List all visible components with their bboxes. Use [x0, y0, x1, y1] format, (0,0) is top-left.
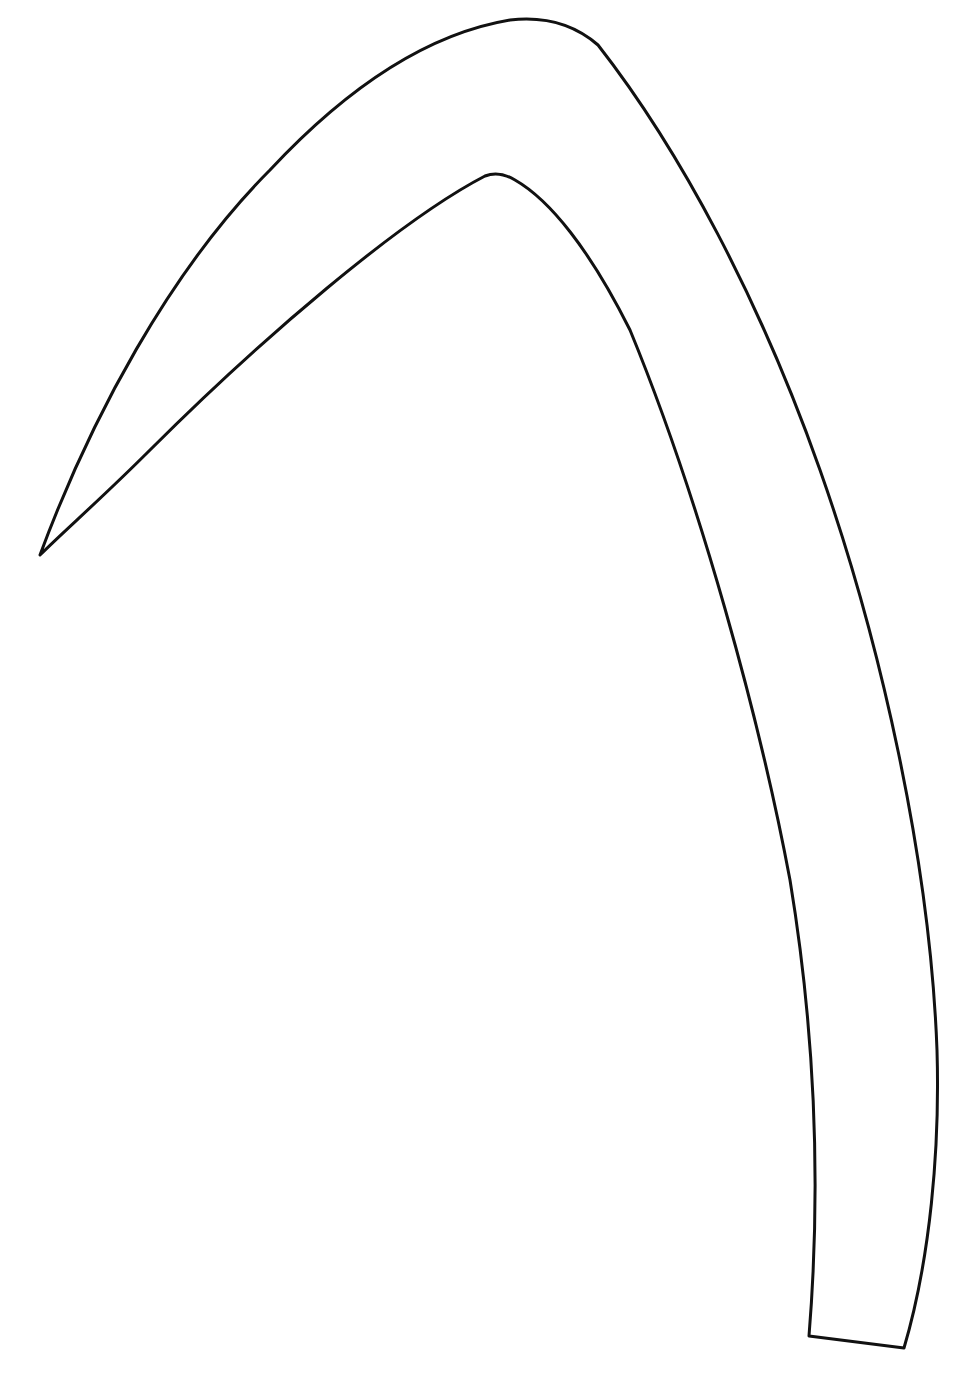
blade-drawing — [0, 0, 974, 1376]
drawing-canvas — [0, 0, 974, 1376]
blade-outline-path — [40, 19, 938, 1348]
